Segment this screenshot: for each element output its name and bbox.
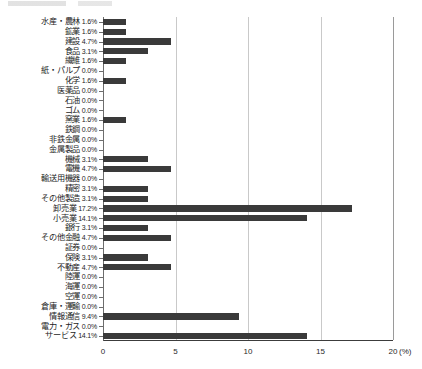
bar-track xyxy=(103,86,393,96)
category-label: サービス14.1% xyxy=(0,331,100,341)
category-value-label: 4.7% xyxy=(82,165,97,172)
bar xyxy=(103,313,239,319)
bar-track xyxy=(103,164,393,174)
category-name: 医薬品 xyxy=(57,86,81,95)
bar-track xyxy=(103,37,393,47)
category-label: ゴム0.0% xyxy=(0,106,100,116)
category-name: 建設 xyxy=(65,37,81,46)
category-label: 精密3.1% xyxy=(0,184,100,194)
category-name: 繊維 xyxy=(65,56,81,65)
bar-track xyxy=(103,223,393,233)
horizontal-bar-chart: 水産・農林1.6%鉱業1.6%建設4.7%食品3.1%繊維1.6%紙・パルプ0.… xyxy=(0,0,422,369)
category-label: 紙・パルプ0.0% xyxy=(0,66,100,76)
category-name: 精密 xyxy=(65,184,81,193)
category-label: 不動産4.7% xyxy=(0,263,100,273)
category-label: 水産・農林1.6% xyxy=(0,17,100,27)
category-label: 電力・ガス0.0% xyxy=(0,322,100,332)
bar-row: 輸送用機器0.0% xyxy=(0,174,422,184)
category-label: 窯業1.6% xyxy=(0,115,100,125)
bar-row: 建設4.7% xyxy=(0,37,422,47)
category-value-label: 0.0% xyxy=(82,67,97,74)
category-label: その他製造3.1% xyxy=(0,194,100,204)
bar xyxy=(103,235,171,241)
category-label: 銀行3.1% xyxy=(0,223,100,233)
bar-row: 金属製品0.0% xyxy=(0,145,422,155)
bar-track xyxy=(103,204,393,214)
category-label: 石油0.0% xyxy=(0,96,100,106)
bar-track xyxy=(103,115,393,125)
category-name: 情報通信 xyxy=(49,312,81,321)
bar-rows: 水産・農林1.6%鉱業1.6%建設4.7%食品3.1%繊維1.6%紙・パルプ0.… xyxy=(0,17,422,341)
category-name: 電力・ガス xyxy=(41,322,81,331)
bar-row: 精密3.1% xyxy=(0,184,422,194)
category-label: 電機4.7% xyxy=(0,164,100,174)
x-axis: 05101520(%) xyxy=(0,341,422,369)
x-tick-label: 10 xyxy=(244,347,253,356)
category-name: 鉱業 xyxy=(65,27,81,36)
bar-track xyxy=(103,125,393,135)
bar-track xyxy=(103,17,393,27)
bar-track xyxy=(103,292,393,302)
category-name: 非鉄金属 xyxy=(49,135,81,144)
bar xyxy=(103,196,148,202)
category-value-label: 1.6% xyxy=(82,77,97,84)
bar-row: 鉱業1.6% xyxy=(0,27,422,37)
category-name: 窯業 xyxy=(65,115,81,124)
bar-row: ゴム0.0% xyxy=(0,105,422,115)
category-value-label: 0.0% xyxy=(82,87,97,94)
bar xyxy=(103,38,171,44)
category-name: ゴム xyxy=(65,106,81,115)
category-name: 海運 xyxy=(65,282,81,291)
bar-row: 電機4.7% xyxy=(0,164,422,174)
bar-row: 陸運0.0% xyxy=(0,272,422,282)
category-label: 空運0.0% xyxy=(0,292,100,302)
bar-track xyxy=(103,321,393,331)
bar-track xyxy=(103,312,393,322)
category-name: 水産・農林 xyxy=(41,17,81,26)
bar xyxy=(103,205,352,211)
category-name: 鉄鋼 xyxy=(65,125,81,134)
category-value-label: 0.0% xyxy=(82,126,97,133)
category-name: 機械 xyxy=(65,155,81,164)
bar xyxy=(103,117,126,123)
bar-row: 情報通信9.4% xyxy=(0,312,422,322)
category-label: 保険3.1% xyxy=(0,253,100,263)
category-value-label: 3.1% xyxy=(82,156,97,163)
bar-row: 非鉄金属0.0% xyxy=(0,135,422,145)
bar-track xyxy=(103,105,393,115)
category-name: 石油 xyxy=(65,96,81,105)
bar-row: 不動産4.7% xyxy=(0,262,422,272)
category-name: 小売業 xyxy=(53,214,77,223)
bar xyxy=(103,166,171,172)
bar-track xyxy=(103,76,393,86)
category-label: 陸運0.0% xyxy=(0,272,100,282)
category-label: 海運0.0% xyxy=(0,282,100,292)
x-tick-label: 0 xyxy=(101,347,105,356)
bar-row: 銀行3.1% xyxy=(0,223,422,233)
category-label: 機械3.1% xyxy=(0,155,100,165)
category-label: その他金融4.7% xyxy=(0,233,100,243)
category-value-label: 1.6% xyxy=(82,57,97,64)
x-tick-label: 15 xyxy=(316,347,325,356)
category-label: 医薬品0.0% xyxy=(0,86,100,96)
bar-row: 卸売業17.2% xyxy=(0,204,422,214)
category-name: 保険 xyxy=(65,253,81,262)
bar xyxy=(103,48,148,54)
category-name: 不動産 xyxy=(57,263,81,272)
bar-track xyxy=(103,184,393,194)
bar xyxy=(103,215,307,221)
category-value-label: 0.0% xyxy=(82,107,97,114)
bar-track xyxy=(103,27,393,37)
bar-row: 繊維1.6% xyxy=(0,56,422,66)
category-value-label: 0.0% xyxy=(82,175,97,182)
bar xyxy=(103,186,148,192)
category-label: 卸売業17.2% xyxy=(0,204,100,214)
bar xyxy=(103,264,171,270)
bar-row: 石油0.0% xyxy=(0,96,422,106)
bar-row: 倉庫・運輸0.0% xyxy=(0,302,422,312)
bar-row: サービス14.1% xyxy=(0,331,422,341)
category-label: 証券0.0% xyxy=(0,243,100,253)
bar xyxy=(103,78,126,84)
bar-row: その他製造3.1% xyxy=(0,194,422,204)
bar-track xyxy=(103,46,393,56)
